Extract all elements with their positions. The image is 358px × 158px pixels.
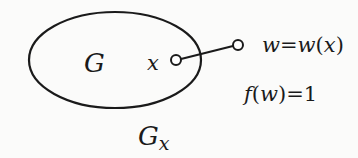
- outer-point-label-x: x: [324, 33, 336, 57]
- condition-lparen: (: [252, 82, 260, 106]
- condition-rparen: ): [278, 82, 286, 106]
- outer-point-label-eq: =: [280, 33, 298, 57]
- condition-var: w: [260, 82, 278, 106]
- inner-point-node-icon: [171, 55, 181, 65]
- boundary-label: Gx: [138, 121, 170, 154]
- outer-point-label: w=w(x): [262, 33, 344, 57]
- region-label: G: [84, 48, 105, 78]
- condition-label: f(w)=1: [242, 82, 317, 106]
- boundary-label-base: G: [138, 121, 159, 151]
- outer-point-label-w2: w: [298, 33, 316, 57]
- condition-eq: =: [286, 82, 304, 106]
- diagram-canvas: G x w=w(x) f(w)=1 Gx: [0, 0, 358, 158]
- inner-point-label: x: [147, 51, 159, 75]
- boundary-label-subscript: x: [159, 132, 170, 154]
- connector-line: [181, 46, 233, 59]
- outer-point-label-rparen: ): [336, 33, 344, 57]
- outer-point-node-icon: [233, 40, 243, 50]
- outer-point-label-w1: w: [262, 33, 280, 57]
- condition-value: 1: [304, 82, 317, 106]
- outer-point-label-lparen: (: [316, 33, 324, 57]
